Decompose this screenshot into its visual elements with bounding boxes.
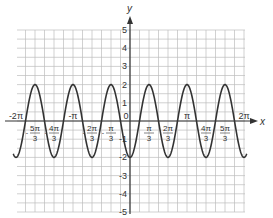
x-tick-label: 4π3 <box>201 124 211 143</box>
y-tick-label: -1 <box>119 134 127 144</box>
x-tick-label: 0 <box>123 111 128 121</box>
sine-graph: -2π5π3-4π3--π2π3-π3-0π32π3π4π35π32π 5432… <box>0 0 273 218</box>
svg-text:3: 3 <box>109 134 114 143</box>
svg-text:4π: 4π <box>49 124 59 133</box>
svg-text:5π: 5π <box>220 124 230 133</box>
y-tick-label: -2 <box>119 152 127 162</box>
x-tick-label: -2π <box>9 111 23 121</box>
svg-text:5π: 5π <box>30 124 40 133</box>
svg-text:4π: 4π <box>201 124 211 133</box>
svg-text:2π: 2π <box>163 124 173 133</box>
y-tick-label: 2 <box>122 80 127 90</box>
y-tick-label: 4 <box>122 43 127 53</box>
x-tick-label: 2π <box>238 111 249 121</box>
svg-text:π: π <box>146 124 152 133</box>
svg-text:3: 3 <box>204 134 209 143</box>
y-tick-label: 5 <box>122 25 127 35</box>
svg-text:3: 3 <box>52 134 57 143</box>
x-tick-label: 4π3- <box>45 124 60 143</box>
svg-text:π: π <box>108 124 114 133</box>
svg-text:3: 3 <box>147 134 152 143</box>
y-tick-label: 3 <box>122 61 127 71</box>
x-tick-label: π <box>184 111 190 121</box>
x-tick-label: π3- <box>102 124 116 143</box>
y-axis-label: y <box>126 3 133 14</box>
svg-text:2π: 2π <box>87 124 97 133</box>
x-axis-label: x <box>259 116 266 127</box>
x-tick-label: π3 <box>144 124 154 143</box>
svg-text:3: 3 <box>166 134 171 143</box>
y-tick-label: -5 <box>119 207 127 217</box>
svg-text:3: 3 <box>223 134 228 143</box>
x-tick-label: -π <box>68 111 77 121</box>
y-tick-label: -4 <box>119 189 127 199</box>
x-tick-label: 5π3- <box>26 124 41 143</box>
svg-text:3: 3 <box>33 134 38 143</box>
x-tick-label: 5π3 <box>220 124 230 143</box>
x-tick-label: 2π3- <box>83 124 98 143</box>
y-tick-label: -3 <box>119 171 127 181</box>
x-tick-label: 2π3 <box>163 124 173 143</box>
svg-text:3: 3 <box>90 134 95 143</box>
y-tick-label: 1 <box>122 98 127 108</box>
